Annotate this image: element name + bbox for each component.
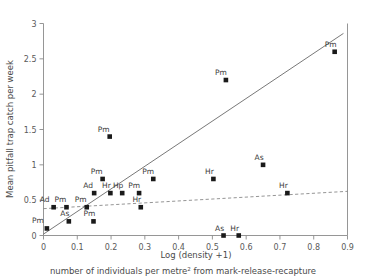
axis-titles-group: Mean pitfall trap catch per week Log (de…	[5, 60, 316, 276]
data-point-marker	[92, 191, 97, 196]
data-point-marker	[211, 177, 216, 182]
data-point-label: Hr	[205, 167, 215, 176]
data-point-marker	[45, 226, 50, 231]
y-axis-tick-label: 1.5	[24, 126, 37, 135]
figure-caption: number of individuals per metre2 from ma…	[50, 266, 316, 276]
data-point-marker	[151, 177, 156, 182]
data-point-marker	[332, 49, 337, 54]
data-point-marker	[138, 205, 143, 210]
y-axis-tick-label: 3	[31, 20, 36, 29]
data-point-marker	[120, 191, 125, 196]
data-point-marker	[91, 219, 96, 224]
data-point-label: Pm	[91, 167, 103, 176]
y-axis-tick-label: 1	[31, 161, 36, 170]
data-point-label: Hp	[113, 181, 124, 190]
data-point-label: Hr	[230, 224, 240, 233]
data-point-label: Pm	[55, 195, 67, 204]
data-point-label: As	[215, 224, 224, 233]
data-point-label: Pm	[128, 181, 140, 190]
data-point-label: Ad	[83, 181, 93, 190]
data-point-marker	[224, 78, 229, 83]
x-axis-tick-label: 0.3	[138, 243, 151, 252]
scatter-plot-figure: 00.10.20.30.40.50.60.70.80.900.511.522.5…	[0, 0, 367, 280]
x-axis-tick-label: 0.6	[240, 243, 253, 252]
axes-group: 00.10.20.30.40.50.60.70.80.900.511.522.5…	[24, 20, 354, 252]
data-point-label: Pm	[325, 40, 337, 49]
data-point-label: Hr	[279, 181, 289, 190]
data-point-label: Pm	[84, 209, 96, 218]
data-points-group: PmAdPmAsPmPmAdPmPmHrHpPmHrPmHrAsPmHrAsHr…	[32, 40, 337, 238]
data-point-label: Pm	[75, 195, 87, 204]
data-point-label: Pm	[215, 68, 227, 77]
data-point-marker	[261, 163, 266, 168]
chart-canvas: 00.10.20.30.40.50.60.70.80.900.511.522.5…	[0, 0, 367, 280]
data-point-marker	[67, 219, 72, 224]
x-axis-tick-label: 0.8	[307, 243, 320, 252]
x-axis-title: Log (density +1)	[161, 250, 232, 260]
data-point-label: As	[60, 209, 69, 218]
data-point-label: As	[255, 153, 264, 162]
y-axis-tick-label: 0	[31, 232, 36, 241]
y-axis-tick-label: 2.5	[24, 55, 37, 64]
y-axis-title: Mean pitfall trap catch per week	[5, 60, 15, 198]
data-point-label: Hr	[132, 195, 142, 204]
data-point-marker	[285, 191, 290, 196]
y-axis-tick-label: 0.5	[24, 196, 37, 205]
data-point-label: Pm	[32, 216, 44, 225]
x-axis-tick-label: 0.9	[341, 243, 354, 252]
data-point-marker	[108, 191, 113, 196]
data-point-label: Hr	[102, 181, 112, 190]
data-point-marker	[51, 205, 56, 210]
x-axis-tick-label: 0.1	[71, 243, 84, 252]
x-axis-tick-label: 0	[41, 243, 46, 252]
x-axis-tick-label: 0.2	[105, 243, 118, 252]
dashed-fit-line	[44, 191, 348, 208]
trend-lines-group	[44, 33, 348, 234]
data-point-label: Pm	[98, 125, 110, 134]
solid-fit-line	[44, 33, 344, 234]
data-point-marker	[221, 233, 226, 238]
data-point-marker	[236, 233, 241, 238]
x-axis-tick-label: 0.7	[274, 243, 287, 252]
data-point-label: Pm	[142, 167, 154, 176]
y-axis-tick-label: 2	[31, 90, 36, 99]
data-point-label: Ad	[40, 195, 50, 204]
data-point-marker	[107, 134, 112, 139]
